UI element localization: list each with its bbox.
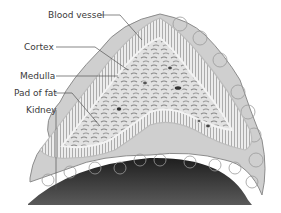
label-medulla: Medulla (20, 71, 55, 81)
label-cortex: Cortex (24, 42, 54, 52)
label-pad-of-fat: Pad of fat (14, 88, 57, 98)
label-kidney: Kidney (26, 105, 57, 115)
label-blood-vessel: Blood vessel (48, 10, 105, 20)
